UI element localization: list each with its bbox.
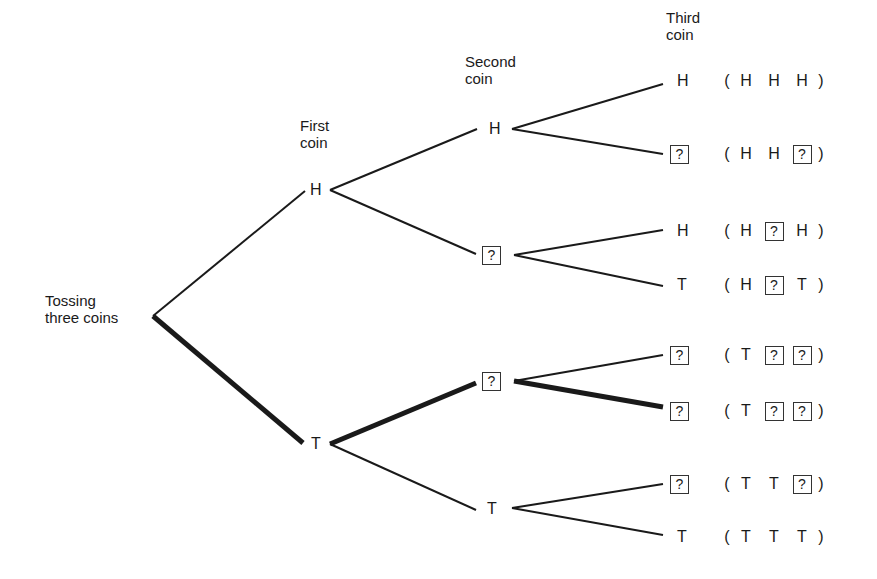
outcome-row: ( H H H ) (722, 71, 826, 91)
branch-Tq-q (514, 355, 663, 381)
outcome-row: ( H ? H ) (722, 221, 826, 241)
third-coin-node: H (677, 222, 689, 240)
branch-HH-q (512, 129, 663, 154)
third-coin-node: ? (670, 346, 689, 365)
first-coin-node-H: H (310, 181, 322, 199)
branch-H-H (330, 129, 477, 190)
branch-Tq-q-highlighted (514, 381, 663, 407)
header-first-coin: First coin (300, 117, 329, 151)
blank-box: ? (765, 222, 784, 241)
branch-Hq-T (514, 255, 663, 286)
third-coin-node: T (677, 276, 687, 294)
third-coin-node: ? (670, 475, 689, 494)
outcome-row: ( T T ? ) (722, 474, 826, 494)
blank-box: ? (670, 475, 689, 494)
third-coin-node: ? (670, 402, 689, 421)
outcome-row: ( H H ? ) (722, 144, 826, 164)
third-coin-node: T (677, 528, 687, 546)
branch-H-q (330, 190, 476, 254)
branch-root-H (153, 191, 305, 316)
blank-box: ? (793, 346, 812, 365)
coin-tree-diagram: First coin Second coin Third coin Tossin… (0, 0, 877, 579)
third-coin-node: H (677, 72, 689, 90)
blank-box: ? (765, 346, 784, 365)
header-third-coin: Third coin (666, 9, 700, 43)
blank-box: ? (765, 402, 784, 421)
blank-box: ? (670, 402, 689, 421)
blank-box: ? (765, 276, 784, 295)
blank-box: ? (793, 475, 812, 494)
blank-box: ? (670, 145, 689, 164)
outcome-row: ( T ? ? ) (722, 401, 826, 421)
branch-Hq-H (514, 230, 663, 255)
second-coin-node-unknown-1: ? (482, 246, 501, 265)
third-coin-node: ? (670, 145, 689, 164)
blank-box: ? (482, 246, 501, 265)
second-coin-node-T: T (487, 500, 497, 518)
header-second-coin: Second coin (465, 53, 516, 87)
blank-box: ? (670, 346, 689, 365)
second-coin-node-H: H (489, 120, 501, 138)
branch-T-q-highlighted (330, 383, 476, 444)
blank-box: ? (793, 402, 812, 421)
blank-box: ? (793, 145, 812, 164)
branch-root-T-highlighted (153, 316, 303, 443)
outcome-row: ( T ? ? ) (722, 345, 826, 365)
branch-TT-T (512, 508, 663, 535)
branch-HH-H (512, 84, 663, 129)
branch-T-T (330, 444, 476, 510)
blank-box: ? (482, 372, 501, 391)
root-label: Tossing three coins (45, 292, 118, 326)
outcome-row: ( T T T ) (722, 527, 826, 547)
first-coin-node-T: T (311, 435, 321, 453)
second-coin-node-unknown-2: ? (482, 372, 501, 391)
branch-TT-q (512, 484, 663, 508)
outcome-row: ( H ? T ) (722, 275, 826, 295)
